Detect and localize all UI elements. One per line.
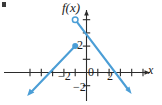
x-axis-label: x [148,64,153,76]
origin-label: 0 [88,66,94,78]
function-graph-figure: f(x) x −2 2 0 2 −2 [0,0,162,105]
y-tick-label-minus-2: −2 [73,81,86,93]
x-tick-label-2: 2 [107,70,113,82]
y-tick-label-2: 2 [77,39,83,51]
y-axis-arrow-icon [84,10,89,16]
x-tick-label-minus-2: −2 [58,70,71,82]
open-circle-marker [72,17,78,23]
function-label: f(x) [62,1,80,14]
